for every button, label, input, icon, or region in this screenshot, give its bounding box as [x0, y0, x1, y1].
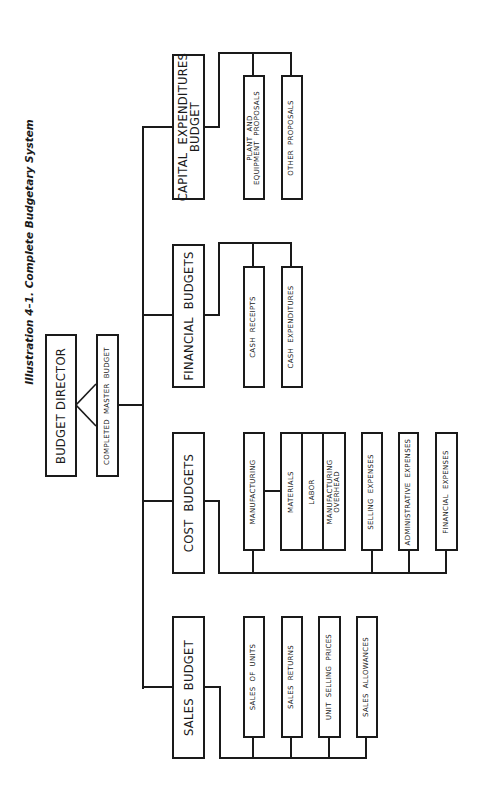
cost-budgets-label: COST BUDGETS — [182, 454, 194, 552]
trunk-to-financial-line — [142, 314, 173, 316]
selling-expenses-box: SELLING EXPENSES — [361, 432, 383, 551]
cost-rise-1 — [252, 550, 254, 573]
completed-master-budget-box: COMPLETED MASTER BUDGET — [96, 334, 119, 477]
director-connector — [76, 380, 98, 430]
labor-label: LABOR — [309, 479, 316, 504]
unit-selling-prices-label: UNIT SELLING PRICES — [326, 634, 333, 720]
plant-equipment-proposals-label: PLANT AND EQUIPMENT PROPOSALS — [247, 91, 262, 185]
diagram-title: Illustration 4–1. Complete Budgetary Sys… — [23, 119, 35, 385]
main-trunk-line — [142, 126, 144, 689]
sales-returns-label: SALES RETURNS — [288, 645, 295, 709]
sales-allowances-label: SALES ALLOWANCES — [363, 637, 370, 717]
manufacturing-label: MANUFACTURING — [250, 459, 257, 524]
capital-branch-top — [218, 52, 292, 54]
financial-branch-v — [218, 242, 220, 316]
sales-budget-box: SALES BUDGET — [172, 616, 205, 759]
capital-expenditures-box: CAPITAL EXPENDITURES BUDGET — [172, 54, 205, 200]
financial-branch-top — [218, 242, 292, 244]
financial-expenses-box: FINANCIAL EXPENSES — [435, 432, 458, 551]
administrative-expenses-box: ADMINISTRATIVE EXPENSES — [398, 432, 419, 551]
financial-drop-1 — [252, 242, 254, 267]
trunk-to-capital-line — [142, 126, 173, 128]
sales-branch-v — [219, 686, 221, 759]
master-to-trunk-line — [118, 404, 144, 406]
financial-budgets-label: FINANCIAL BUDGETS — [182, 251, 194, 380]
sales-returns-box: SALES RETURNS — [281, 616, 303, 738]
cost-rise-3 — [408, 550, 410, 573]
sales-of-units-label: SALES OF UNITS — [250, 644, 257, 711]
sales-branch-bottom — [219, 757, 367, 759]
capital-expenditures-label: CAPITAL EXPENDITURES BUDGET — [176, 53, 200, 201]
materials-box: MATERIALS — [280, 432, 303, 551]
plant-equipment-proposals-box: PLANT AND EQUIPMENT PROPOSALS — [243, 75, 265, 200]
cash-receipts-box: CASH RECEIPTS — [243, 266, 265, 388]
cash-expenditures-label: CASH EXPENDITURES — [288, 286, 295, 369]
cost-rise-4 — [445, 550, 447, 573]
materials-label: MATERIALS — [288, 471, 295, 513]
budget-director-box: BUDGET DIRECTOR — [45, 334, 77, 477]
labor-box: LABOR — [301, 432, 324, 551]
completed-master-budget-label: COMPLETED MASTER BUDGET — [104, 347, 111, 465]
sales-of-units-box: SALES OF UNITS — [243, 616, 265, 738]
sales-rise-1 — [252, 737, 254, 758]
manufacturing-overhead-box: MANUFACTURING OVERHEAD — [322, 432, 346, 551]
sales-budget-label: SALES BUDGET — [182, 640, 194, 736]
financial-expenses-label: FINANCIAL EXPENSES — [443, 450, 450, 534]
financial-budgets-box: FINANCIAL BUDGETS — [172, 244, 205, 388]
budget-director-label: BUDGET DIRECTOR — [55, 347, 67, 463]
manufacturing-to-components-line — [264, 490, 281, 492]
cash-expenditures-box: CASH EXPENDITURES — [281, 266, 303, 388]
other-proposals-label: OTHER PROPOSALS — [288, 100, 295, 176]
trunk-to-cost-line — [142, 500, 173, 502]
cost-budgets-box: COST BUDGETS — [172, 432, 205, 574]
sales-allowances-box: SALES ALLOWANCES — [356, 616, 378, 738]
capital-drop-2 — [290, 52, 292, 76]
manufacturing-box: MANUFACTURING — [243, 432, 265, 551]
cost-branch-v — [218, 500, 220, 574]
trunk-to-sales-line — [142, 686, 173, 688]
sales-rise-3 — [328, 737, 330, 758]
financial-drop-2 — [290, 242, 292, 267]
cash-receipts-label: CASH RECEIPTS — [250, 296, 257, 358]
sales-rise-4 — [365, 737, 367, 758]
capital-drop-1 — [252, 52, 254, 76]
selling-expenses-label: SELLING EXPENSES — [368, 454, 375, 529]
cost-rise-2 — [371, 550, 373, 573]
sales-rise-2 — [290, 737, 292, 758]
administrative-expenses-label: ADMINISTRATIVE EXPENSES — [405, 438, 412, 545]
unit-selling-prices-box: UNIT SELLING PRICES — [318, 616, 341, 738]
manufacturing-overhead-label: MANUFACTURING OVERHEAD — [327, 459, 342, 524]
capital-branch-v — [218, 52, 220, 128]
other-proposals-box: OTHER PROPOSALS — [281, 75, 303, 200]
